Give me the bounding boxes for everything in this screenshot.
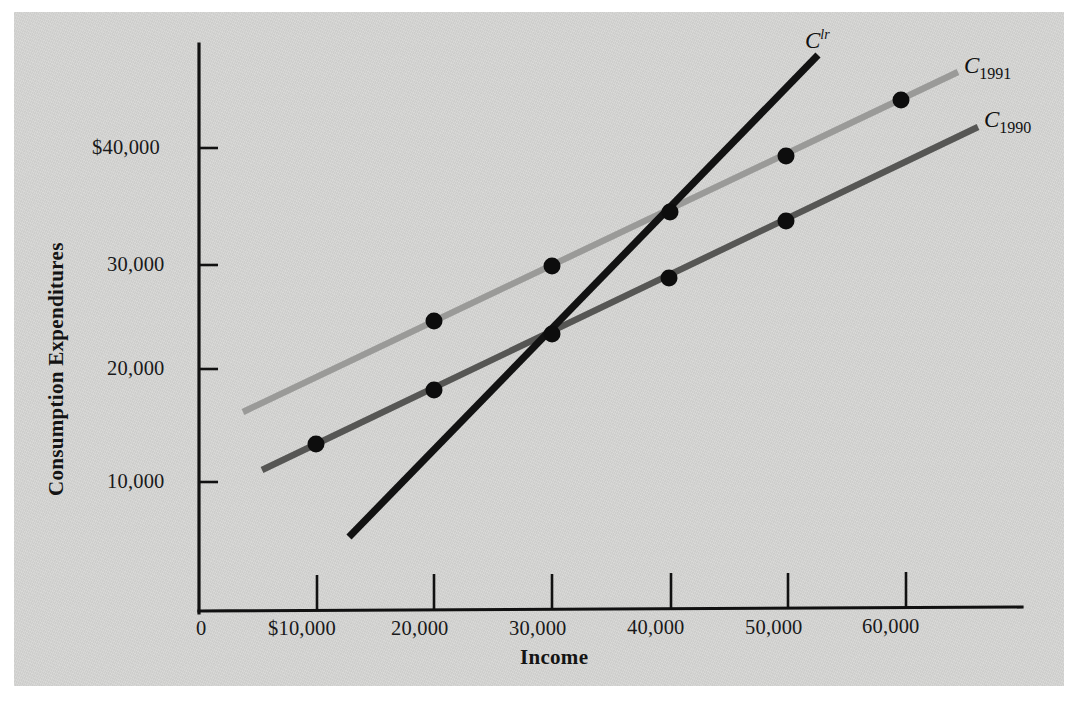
- data-point: [662, 204, 679, 221]
- x-tick-label-40000: 40,000: [627, 616, 685, 639]
- curve-clr: [349, 55, 818, 537]
- curve-label-c1991-subscript: 1991: [979, 65, 1011, 82]
- data-point: [544, 326, 561, 343]
- data-point: [661, 270, 678, 287]
- y-tick-label-40000: $40,000: [92, 136, 160, 159]
- data-point: [778, 213, 795, 230]
- curve-label-c1991-main: C: [964, 53, 979, 78]
- data-point: [893, 92, 910, 109]
- y-tick-marks: [199, 148, 218, 482]
- curve-label-c1991: C1991: [964, 53, 1011, 83]
- x-tick-label-60000: 60,000: [862, 615, 920, 638]
- x-tick-marks: [317, 572, 906, 611]
- curve-label-clr-superscript: lr: [820, 27, 829, 42]
- data-point: [544, 258, 561, 275]
- y-tick-label-20000: 20,000: [107, 357, 165, 380]
- y-axis-title: Consumption Expenditures: [44, 242, 69, 496]
- curve-c1990: [262, 127, 978, 470]
- curve-label-clr-main: C: [805, 28, 820, 53]
- x-tick-label-50000: 50,000: [745, 616, 803, 639]
- curve-c1991: [243, 72, 958, 412]
- data-point: [778, 148, 795, 165]
- data-point: [308, 436, 325, 453]
- data-point: [426, 313, 443, 330]
- chart-figure: $40,000 30,000 20,000 10,000 0 $10,000 2…: [0, 0, 1078, 716]
- y-tick-label-30000: 30,000: [107, 253, 165, 276]
- curve-label-c1990: C1990: [984, 107, 1031, 137]
- curve-label-clr: Clr: [805, 27, 830, 54]
- x-origin-label: 0: [196, 617, 206, 640]
- x-tick-label-10000: $10,000: [268, 617, 336, 640]
- x-axis-line: [199, 607, 1022, 611]
- data-point: [426, 382, 443, 399]
- x-tick-label-30000: 30,000: [509, 617, 567, 640]
- y-tick-label-10000: 10,000: [107, 470, 165, 493]
- curve-label-c1990-subscript: 1990: [999, 119, 1031, 136]
- x-axis-title: Income: [520, 645, 588, 670]
- curve-label-c1990-main: C: [984, 107, 999, 132]
- x-tick-label-20000: 20,000: [391, 617, 449, 640]
